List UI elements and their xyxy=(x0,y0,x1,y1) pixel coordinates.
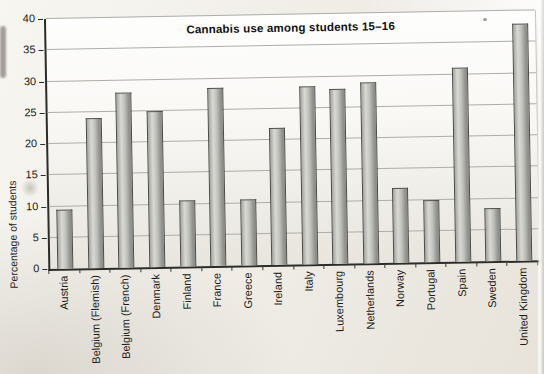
x-tick-mark-2 xyxy=(109,269,110,273)
y-tick-mark-10 xyxy=(41,206,46,207)
y-axis: 0510152025303540 xyxy=(0,0,541,5)
y-tick-label-35: 35 xyxy=(9,43,35,55)
y-tick-label-0: 0 xyxy=(13,262,39,274)
y-tick-label-10: 10 xyxy=(12,200,38,212)
bar-denmark xyxy=(147,111,166,268)
bar-belgium-flemish xyxy=(86,118,105,268)
y-tick-mark-35 xyxy=(39,50,44,51)
chart-title: Cannabis use among students 15–16 xyxy=(46,17,535,38)
x-label-netherlands: Netherlands xyxy=(363,270,376,330)
x-tick-mark-5 xyxy=(201,267,202,271)
bar-spain xyxy=(451,68,470,262)
bar-chart: Cannabis use among students 15–16 Percen… xyxy=(0,0,541,5)
y-tick-mark-5 xyxy=(42,238,47,239)
x-label-belgium-french: Belgium (French) xyxy=(119,274,132,359)
plot-area: Cannabis use among students 15–16 xyxy=(44,10,540,271)
y-tick-label-20: 20 xyxy=(11,137,37,149)
bar-netherlands xyxy=(360,82,379,264)
x-label-portugal: Portugal xyxy=(424,269,437,310)
bar-france xyxy=(207,88,226,266)
x-tick-mark-11 xyxy=(384,264,385,268)
x-label-luxembourg: Luxembourg xyxy=(333,271,346,332)
gridline-40 xyxy=(46,9,535,19)
bar-greece xyxy=(240,200,257,266)
x-tick-mark-10 xyxy=(354,265,355,269)
x-tick-mark-13 xyxy=(446,263,447,267)
chart-tilt-wrapper: Cannabis use among students 15–16 Percen… xyxy=(0,0,544,374)
gridline-35 xyxy=(47,41,536,51)
x-label-norway: Norway xyxy=(394,270,407,308)
bar-belgium-french xyxy=(116,92,135,267)
page-edge-shadow xyxy=(537,0,544,374)
y-tick-mark-30 xyxy=(39,81,44,82)
scan-artifact-speck xyxy=(483,18,487,21)
x-label-austria: Austria xyxy=(58,276,71,310)
bar-austria xyxy=(57,209,74,269)
y-tick-label-40: 40 xyxy=(9,12,35,24)
y-tick-mark-15 xyxy=(41,175,46,176)
x-tick-mark-8 xyxy=(293,266,294,270)
bar-portugal xyxy=(423,200,440,263)
x-tick-mark-3 xyxy=(140,268,141,272)
x-label-finland: Finland xyxy=(180,273,193,309)
y-tick-mark-25 xyxy=(40,113,45,114)
y-tick-mark-40 xyxy=(38,19,43,20)
y-tick-mark-20 xyxy=(40,144,45,145)
x-tick-mark-1 xyxy=(79,269,80,273)
scanned-page: Cannabis use among students 15–16 Percen… xyxy=(0,0,544,374)
scan-artifact-edge-smear xyxy=(0,26,6,78)
bar-norway xyxy=(392,188,409,263)
scan-artifact-smudge xyxy=(22,178,38,198)
x-label-france: France xyxy=(211,273,224,307)
x-label-sweden: Sweden xyxy=(486,268,499,308)
x-label-united-kingdom: United Kingdom xyxy=(516,268,529,346)
x-tick-mark-6 xyxy=(232,267,233,271)
x-label-ireland: Ireland xyxy=(272,272,285,306)
gridlines xyxy=(46,10,535,19)
x-label-belgium-flemish: Belgium (Flemish) xyxy=(88,275,102,364)
bar-sweden xyxy=(485,208,502,261)
bar-united-kingdom xyxy=(512,23,532,261)
bar-italy xyxy=(299,86,318,264)
y-tick-label-30: 30 xyxy=(10,75,36,87)
x-tick-mark-9 xyxy=(323,265,324,269)
x-label-italy: Italy xyxy=(302,271,314,291)
x-tick-mark-4 xyxy=(171,268,172,272)
x-axis: AustriaBelgium (Flemish)Belgium (French)… xyxy=(0,0,541,5)
x-tick-mark-15 xyxy=(507,262,508,266)
x-tick-mark-14 xyxy=(476,262,477,266)
x-tick-mark-12 xyxy=(415,263,416,267)
bar-luxembourg xyxy=(330,89,349,264)
x-label-denmark: Denmark xyxy=(149,274,162,319)
x-tick-mark-0 xyxy=(48,270,49,274)
y-tick-label-25: 25 xyxy=(10,106,36,118)
x-label-spain: Spain xyxy=(455,269,467,297)
bar-ireland xyxy=(269,127,287,265)
bar-finland xyxy=(179,201,196,267)
x-label-greece: Greece xyxy=(241,272,254,308)
x-tick-mark-7 xyxy=(262,266,263,270)
y-tick-label-5: 5 xyxy=(13,231,39,243)
y-tick-mark-0 xyxy=(42,269,47,270)
